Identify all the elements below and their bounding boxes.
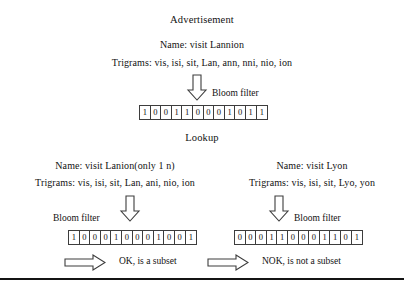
lookup-left-result-label: OK, is a subset	[119, 256, 177, 266]
bloom-filter-diagram: Advertisement Name: visit Lannion Trigra…	[0, 0, 404, 291]
advertisement-title: Advertisement	[0, 14, 404, 25]
bit-cell: 0	[246, 231, 257, 244]
bit-cell: 0	[164, 231, 175, 244]
lookup-left-trigrams-line: Trigrams: vis, isi, sit, Lan, ani, nio, …	[10, 177, 220, 188]
bit-cell: 0	[235, 231, 246, 244]
bit-cell: 0	[133, 231, 144, 244]
bit-cell: 1	[111, 231, 122, 244]
lookup-right-trigrams-line: Trigrams: vis, isi, sit, Lyo, yon	[222, 177, 402, 188]
bit-cell: 0	[101, 231, 112, 244]
lookup-right-bit-array: 000110001101	[234, 230, 363, 245]
lookup-right-name-line: Name: visit Lyon	[222, 160, 402, 171]
bit-cell: 0	[161, 106, 172, 119]
lookup-left-bloom-filter-label: Bloom filter	[53, 213, 100, 223]
lookup-left-result-arrow-icon	[64, 254, 106, 271]
advertisement-bit-array: 100110001011	[139, 105, 268, 120]
bit-cell: 1	[186, 231, 197, 244]
bit-cell: 1	[246, 106, 257, 119]
bit-cell: 0	[122, 231, 133, 244]
bit-cell: 0	[299, 231, 310, 244]
bit-cell: 1	[257, 106, 268, 119]
bit-cell: 0	[90, 231, 101, 244]
bit-cell: 1	[182, 106, 193, 119]
bit-cell: 1	[154, 231, 165, 244]
advertisement-trigrams-line: Trigrams: vis, isi, sit, Lan, ann, nni, …	[0, 57, 404, 68]
bit-cell: 0	[214, 106, 225, 119]
lookup-left-bloom-arrow-icon	[119, 195, 141, 222]
bit-cell: 0	[235, 106, 246, 119]
bit-cell: 1	[267, 231, 278, 244]
bit-cell: 0	[309, 231, 320, 244]
bit-cell: 0	[143, 231, 154, 244]
bit-cell: 1	[172, 106, 183, 119]
advertisement-name-line: Name: visit Lannion	[0, 39, 404, 50]
bit-cell: 0	[151, 106, 162, 119]
bit-cell: 1	[277, 231, 288, 244]
bit-cell: 1	[69, 231, 80, 244]
lookup-left-bit-array: 100010001001	[68, 230, 197, 245]
lookup-right-bloom-filter-label: Bloom filter	[294, 213, 341, 223]
bit-cell: 0	[256, 231, 267, 244]
lookup-title: Lookup	[0, 132, 404, 143]
bit-cell: 0	[193, 106, 204, 119]
bit-cell: 0	[80, 231, 91, 244]
lookup-left-name-line: Name: visit Lanion(only 1 n)	[10, 160, 220, 171]
bit-cell: 0	[288, 231, 299, 244]
bit-cell: 1	[225, 106, 236, 119]
bit-cell: 1	[320, 231, 331, 244]
bit-cell: 0	[204, 106, 215, 119]
bit-cell: 0	[341, 231, 352, 244]
bit-cell: 1	[140, 106, 151, 119]
bit-cell: 0	[175, 231, 186, 244]
lookup-right-result-arrow-icon	[207, 254, 249, 271]
lookup-right-result-label: NOK, is not a subset	[262, 256, 341, 266]
bit-cell: 1	[330, 231, 341, 244]
bottom-divider	[0, 278, 404, 280]
advertisement-bloom-arrow-icon	[186, 74, 208, 101]
advertisement-bloom-filter-label: Bloom filter	[212, 88, 259, 98]
bit-cell: 1	[352, 231, 363, 244]
lookup-right-bloom-arrow-icon	[268, 195, 290, 222]
